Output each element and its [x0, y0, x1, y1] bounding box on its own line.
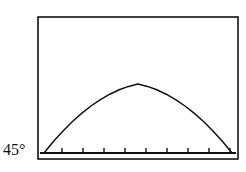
trajectory-plot — [0, 0, 246, 172]
launch-angle-label: 45° — [3, 142, 25, 158]
trajectory-curve — [44, 84, 232, 153]
x-axis-tick-group — [62, 148, 230, 152]
plot-frame — [38, 17, 238, 159]
figure-canvas: 45° — [0, 0, 246, 172]
